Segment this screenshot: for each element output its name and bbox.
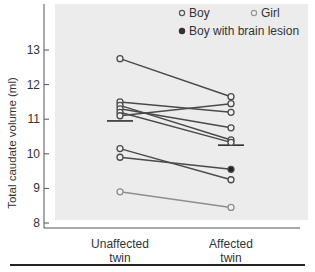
y-tick-label: 9 bbox=[33, 181, 40, 195]
data-point bbox=[228, 94, 234, 100]
y-tick-label: 12 bbox=[27, 78, 41, 92]
data-point bbox=[228, 139, 234, 145]
legend-marker-icon bbox=[179, 28, 184, 33]
data-point bbox=[117, 146, 123, 152]
data-point bbox=[228, 101, 234, 107]
x-axis: UnaffectedtwinAffectedtwin bbox=[44, 228, 300, 265]
data-point bbox=[228, 204, 234, 210]
legend-label: Boy bbox=[189, 6, 210, 20]
x-category-label: twin bbox=[109, 251, 130, 265]
x-category-label: Unaffected bbox=[91, 237, 149, 251]
data-point bbox=[117, 189, 123, 195]
data-point bbox=[228, 109, 234, 115]
chart: 8910111213 UnaffectedtwinAffectedtwin Bo… bbox=[0, 0, 315, 272]
y-tick-label: 10 bbox=[27, 147, 41, 161]
x-category-label: twin bbox=[220, 251, 241, 265]
data-point bbox=[117, 113, 123, 119]
y-tick-label: 13 bbox=[27, 43, 41, 57]
data-point bbox=[228, 177, 234, 183]
data-point-lesion bbox=[228, 166, 234, 172]
y-tick-label: 8 bbox=[33, 216, 40, 230]
legend-label: Girl bbox=[261, 6, 280, 20]
y-axis: 8910111213 bbox=[27, 4, 49, 230]
legend-marker-icon bbox=[179, 10, 184, 15]
data-point bbox=[228, 125, 234, 131]
legend-marker-icon bbox=[251, 10, 256, 15]
x-category-label: Affected bbox=[209, 237, 253, 251]
y-tick-label: 11 bbox=[28, 112, 41, 126]
y-axis-title: Total caudate volume (ml) bbox=[6, 77, 18, 209]
data-point bbox=[117, 56, 123, 62]
data-point bbox=[117, 154, 123, 160]
legend-label: Boy with brain lesion bbox=[189, 24, 299, 38]
